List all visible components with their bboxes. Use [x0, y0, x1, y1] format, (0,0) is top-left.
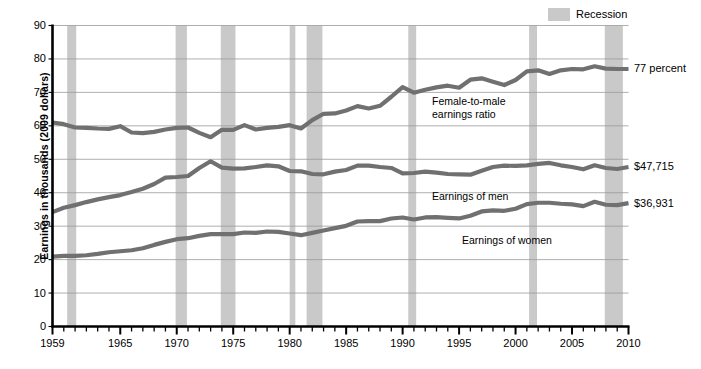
data-series: [53, 66, 629, 256]
annotation-ratio: Female-to-maleearnings ratio: [432, 95, 506, 121]
x-tick-label: 1965: [95, 338, 145, 349]
y-tick-label: 20: [12, 254, 46, 265]
gridlines: [53, 26, 629, 294]
x-tick-label: 2000: [491, 338, 541, 349]
chart-figure: Earnings in thousands (2009 dollars)0102…: [0, 0, 701, 369]
y-tick-label: 30: [12, 221, 46, 232]
annotation-men: Earnings of men: [432, 190, 508, 203]
end-label-ratio: 77 percent: [634, 63, 686, 74]
y-tick-label: 10: [12, 288, 46, 299]
end-label-women: $36,931: [634, 198, 674, 209]
x-tick-label: 1959: [28, 338, 78, 349]
y-tick-label: 60: [12, 120, 46, 131]
annotation-women: Earnings of women: [462, 234, 552, 247]
x-tick-label: 1975: [208, 338, 258, 349]
annotation-ratio-line2: earnings ratio: [432, 108, 506, 121]
series-line-women: [53, 202, 629, 257]
x-tick-label: 2005: [547, 338, 597, 349]
y-tick-label: 90: [12, 20, 46, 31]
plot-canvas: [0, 0, 701, 369]
x-tick-label: 2010: [604, 338, 654, 349]
recession-band: [221, 26, 236, 327]
recession-band: [408, 26, 416, 327]
x-tick-label: 1970: [152, 338, 202, 349]
recession-band: [290, 26, 296, 327]
y-tick-label: 80: [12, 53, 46, 64]
annotation-ratio-line1: Female-to-male: [432, 95, 506, 108]
y-tick-label: 40: [12, 187, 46, 198]
y-tick-label: 0: [12, 321, 46, 332]
end-label-men: $47,715: [634, 161, 674, 172]
x-tick-label: 1995: [434, 338, 484, 349]
x-tick-label: 1985: [321, 338, 371, 349]
x-tick-label: 1980: [265, 338, 315, 349]
y-tick-label: 70: [12, 87, 46, 98]
recession-legend-swatch: [548, 8, 570, 21]
series-line-ratio: [53, 66, 629, 137]
x-tick-label: 1990: [378, 338, 428, 349]
y-tick-label: 50: [12, 154, 46, 165]
recession-legend-label: Recession: [576, 9, 627, 20]
recession-band: [67, 26, 76, 327]
